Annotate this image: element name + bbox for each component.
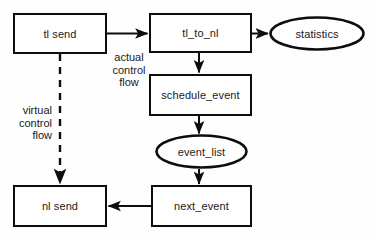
node-nl-send[interactable]: nl send	[13, 185, 107, 227]
node-event-list[interactable]: event_list	[155, 134, 248, 169]
node-tl-to-nl[interactable]: tl_to_nl	[149, 13, 252, 53]
node-statistics-label: statistics	[295, 28, 338, 40]
control-flow-diagram: tl send tl_to_nl statistics schedule_eve…	[0, 0, 375, 239]
node-schedule-event[interactable]: schedule_event	[149, 74, 252, 116]
node-next-event-label: next_event	[174, 200, 229, 212]
node-schedule-event-label: schedule_event	[161, 89, 239, 101]
label-virtual-control-flow: virtual control flow	[10, 104, 52, 142]
node-tl-send[interactable]: tl send	[13, 13, 107, 54]
node-statistics[interactable]: statistics	[269, 16, 365, 51]
node-tl-send-label: tl send	[43, 28, 76, 40]
node-nl-send-label: nl send	[42, 200, 78, 212]
node-event-list-label: event_list	[178, 146, 225, 158]
node-tl-to-nl-label: tl_to_nl	[182, 27, 218, 39]
node-next-event[interactable]: next_event	[151, 185, 252, 227]
label-actual-control-flow: actual control flow	[101, 51, 157, 89]
